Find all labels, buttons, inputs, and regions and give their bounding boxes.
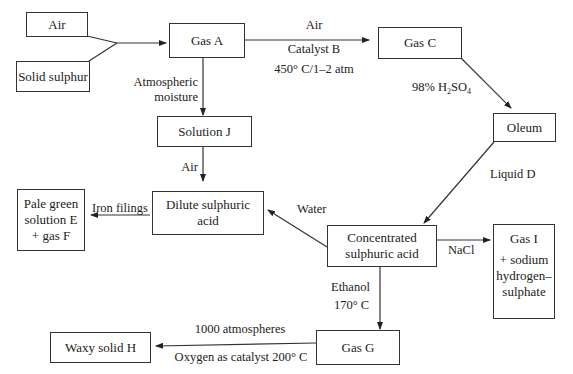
h2so4-prefix: 98% H	[412, 80, 447, 94]
node-gas-a-label: Gas A	[191, 33, 223, 49]
node-air: Air	[26, 12, 88, 37]
node-gas-a: Gas A	[169, 23, 245, 58]
edge-label-air-to-dilute: Air	[150, 160, 198, 175]
edge-label-nacl: NaCl	[448, 243, 474, 258]
node-pale-green-line2: solution E	[24, 212, 77, 228]
node-pale-green-line3: + gas F	[32, 228, 70, 244]
edge-label-liquid-d: Liquid D	[490, 167, 535, 182]
node-solid-sulphur: Solid sulphur	[16, 61, 90, 92]
node-gas-i-line2: + sodium	[500, 252, 549, 268]
node-gas-i: Gas I + sodium hydrogen– sulphate	[493, 224, 555, 319]
node-air-label: Air	[48, 17, 65, 33]
edge-label-atmospheric: Atmospheric	[120, 75, 198, 90]
edge-label-1000-atmospheres: 1000 atmospheres	[180, 322, 300, 337]
h2so4-sub-4: 4	[467, 87, 471, 96]
node-gas-c: Gas C	[378, 27, 462, 59]
node-dilute-sulphuric-acid: Dilute sulphuric acid	[152, 191, 264, 235]
node-dilute-line2: acid	[197, 213, 219, 229]
edge-label-98-h2so4: 98% H2SO4	[412, 80, 471, 99]
node-gas-i-line3: hydrogen–	[496, 268, 552, 284]
node-dilute-line1: Dilute sulphuric	[166, 197, 250, 213]
node-gas-g: Gas G	[316, 330, 400, 365]
edge-label-170c: 170° C	[334, 298, 369, 313]
node-solid-sulphur-label: Solid sulphur	[18, 69, 88, 85]
h2so4-mid: SO	[451, 80, 467, 94]
node-conc-line2: sulphuric acid	[345, 246, 418, 262]
edge-label-water: Water	[297, 202, 327, 217]
edge-label-moisture: moisture	[120, 90, 198, 105]
node-concentrated-sulphuric-acid: Concentrated sulphuric acid	[327, 225, 437, 267]
node-gas-c-label: Gas C	[404, 35, 436, 51]
edge-label-oxygen-catalyst: Oxygen as catalyst 200° C	[166, 350, 316, 365]
node-waxy-solid-label: Waxy solid H	[65, 340, 136, 356]
edge-label-temperature-pressure: 450° C/1–2 atm	[256, 62, 372, 77]
edge-label-catalyst-b: Catalyst B	[266, 42, 362, 57]
node-solution-j: Solution J	[157, 116, 252, 147]
node-waxy-solid-h: Waxy solid H	[50, 332, 151, 363]
node-oleum: Oleum	[493, 113, 556, 142]
node-solution-j-label: Solution J	[178, 124, 230, 140]
edge-label-iron-filings: Iron filings	[92, 201, 148, 216]
node-gas-i-line1: Gas I	[510, 231, 538, 247]
edge-label-ethanol: Ethanol	[331, 280, 370, 295]
node-pale-green-solution: Pale green solution E + gas F	[17, 189, 85, 251]
node-gas-i-line4: sulphate	[502, 284, 545, 300]
edge-label-air-top: Air	[284, 18, 344, 33]
node-oleum-label: Oleum	[507, 120, 542, 136]
node-conc-line1: Concentrated	[347, 230, 416, 246]
node-pale-green-line1: Pale green	[24, 196, 79, 212]
node-gas-g-label: Gas G	[342, 340, 375, 356]
